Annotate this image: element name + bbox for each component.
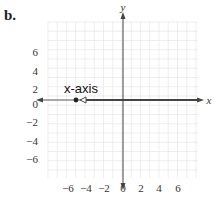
x-tick: −6 xyxy=(62,182,74,194)
y-tick: −2 xyxy=(26,116,38,128)
x-tick: 0 xyxy=(120,182,126,194)
y-tick: −4 xyxy=(26,135,38,147)
y-tick: 4 xyxy=(33,65,39,77)
x-tick-labels: −6 −4 −2 0 2 4 6 xyxy=(62,182,181,194)
x-axis-name: x xyxy=(206,94,212,106)
y-tick: 0 xyxy=(33,98,39,110)
x-tick: −4 xyxy=(80,182,92,194)
x-tick: 2 xyxy=(138,182,144,194)
coordinate-plane: −6 −4 −2 0 2 4 6 6 4 2 0 −2 −4 −6 y x x-… xyxy=(0,0,220,199)
y-tick: 2 xyxy=(33,83,39,95)
x-tick: 6 xyxy=(175,182,181,194)
x-tick: 4 xyxy=(156,182,162,194)
y-tick-labels: 6 4 2 0 −2 −4 −6 xyxy=(26,46,38,165)
y-tick: 6 xyxy=(33,46,39,58)
ray-open-arrowhead-icon xyxy=(80,97,86,103)
y-tick: −6 xyxy=(26,153,38,165)
x-axis-annotation: x-axis xyxy=(64,81,98,96)
y-axis-arrow-up-icon xyxy=(121,12,126,19)
y-axis-name: y xyxy=(120,1,126,13)
point-marker xyxy=(74,98,79,103)
x-tick: −2 xyxy=(98,182,110,194)
